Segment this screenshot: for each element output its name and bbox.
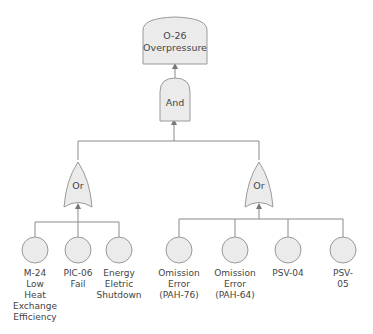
or-gate-left-label: Or xyxy=(72,180,83,192)
top-event-label: O-26 Overpressure xyxy=(143,30,207,54)
event-label-psv05: PSV-05 xyxy=(328,268,358,290)
basic-event-pah64[interactable] xyxy=(222,237,248,263)
basic-event-pah76[interactable] xyxy=(166,237,192,263)
event-label-pah64: Omission Error (PAH-64) xyxy=(214,268,255,301)
and-gate-label: And xyxy=(166,97,185,109)
basic-event-psv04[interactable] xyxy=(275,237,301,263)
basic-event-pic06[interactable] xyxy=(65,237,91,263)
event-label-pic06: PIC-06 Fail xyxy=(63,268,92,290)
event-label-m24: M-24 Low Heat Exchange Efficiency xyxy=(13,268,57,323)
basic-event-psv05[interactable] xyxy=(330,237,356,263)
basic-event-m24[interactable] xyxy=(22,237,48,263)
event-label-energy-shutdown: Energy Eletric Shutdown xyxy=(97,268,142,301)
event-label-pah76: Omission Error (PAH-76) xyxy=(158,268,199,301)
event-label-psv04: PSV-04 xyxy=(272,268,303,279)
or-gate-right-label: Or xyxy=(253,180,264,192)
basic-event-energy-shutdown[interactable] xyxy=(106,237,132,263)
